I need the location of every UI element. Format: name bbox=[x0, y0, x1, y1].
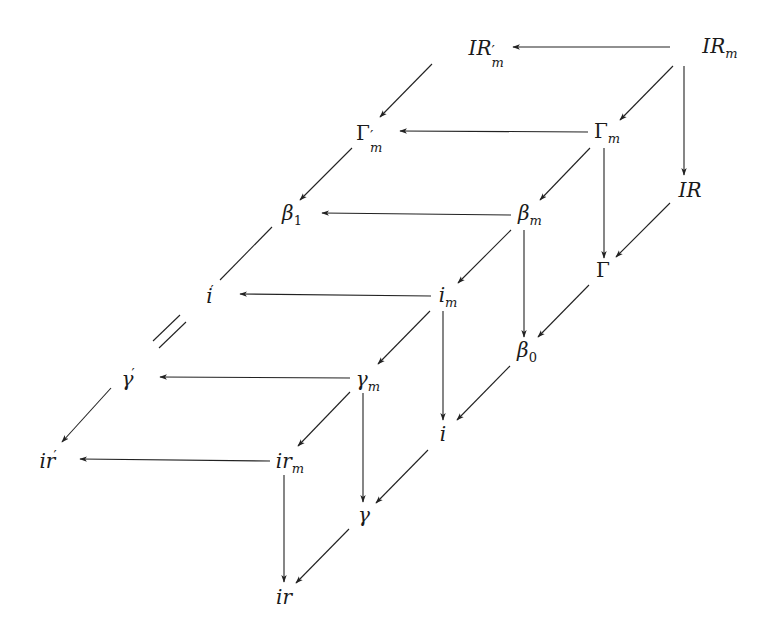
node-b0: β0 bbox=[517, 340, 537, 364]
node-Gm: Γm bbox=[594, 121, 620, 145]
node-irp: ir′ bbox=[39, 449, 56, 471]
node-ir: ir bbox=[276, 587, 292, 607]
arrow bbox=[458, 230, 511, 283]
node-irm: irm bbox=[276, 451, 304, 475]
line-segment bbox=[220, 227, 272, 280]
node-g: γ bbox=[358, 505, 370, 525]
line-segment bbox=[153, 315, 180, 341]
node-im: im bbox=[439, 285, 458, 309]
arrow bbox=[540, 148, 590, 200]
arrow bbox=[300, 148, 352, 200]
node-IRm: IRm bbox=[702, 36, 737, 60]
node-gp: γ′ bbox=[121, 367, 134, 389]
node-G: Γ bbox=[596, 260, 610, 280]
arrow bbox=[322, 213, 511, 215]
node-IRpm: IR′m bbox=[469, 38, 506, 58]
arrow bbox=[620, 66, 673, 120]
arrow bbox=[296, 529, 349, 583]
arrow bbox=[160, 377, 350, 378]
line-segment bbox=[159, 322, 186, 348]
arrow bbox=[298, 392, 350, 446]
node-b1: β1 bbox=[282, 203, 302, 227]
arrow bbox=[538, 285, 589, 337]
node-IR: IR bbox=[679, 180, 702, 200]
arrow bbox=[457, 366, 510, 420]
arrow bbox=[378, 311, 430, 364]
node-ip: i′ bbox=[206, 284, 214, 306]
node-gm: γm bbox=[356, 369, 380, 393]
commutative-diagram bbox=[0, 0, 760, 636]
node-bm: βm bbox=[518, 203, 542, 227]
arrow bbox=[616, 203, 670, 257]
arrow bbox=[62, 388, 111, 442]
arrow bbox=[376, 450, 428, 503]
arrow bbox=[80, 459, 270, 461]
arrow bbox=[380, 64, 432, 117]
arrow bbox=[240, 294, 431, 296]
node-i: i bbox=[440, 424, 446, 444]
node-Gpm: Γ′m bbox=[356, 123, 384, 143]
arrow bbox=[400, 131, 588, 132]
